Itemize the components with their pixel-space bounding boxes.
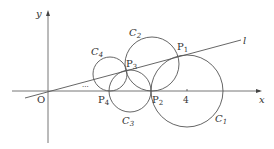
c3-label: C3 bbox=[122, 115, 135, 128]
ellipsis: ··· bbox=[82, 83, 89, 91]
diagram-canvas: y x O 4 l ··· C4 C2 C3 C1 P1 P2 P3 P4 bbox=[0, 0, 274, 149]
c1-label: C1 bbox=[215, 113, 227, 126]
x-axis-label: x bbox=[259, 94, 265, 105]
x-axis-arrow-icon bbox=[256, 89, 262, 93]
line-l-label: l bbox=[243, 35, 246, 46]
p1-label: P1 bbox=[177, 41, 188, 54]
c4-label: C4 bbox=[91, 46, 103, 59]
c2-label: C2 bbox=[129, 27, 142, 40]
tick-label-4: 4 bbox=[183, 95, 189, 105]
p4-label: P4 bbox=[98, 94, 110, 107]
origin-label: O bbox=[37, 94, 45, 105]
y-axis-label: y bbox=[35, 8, 42, 19]
y-axis-arrow-icon bbox=[46, 10, 50, 16]
